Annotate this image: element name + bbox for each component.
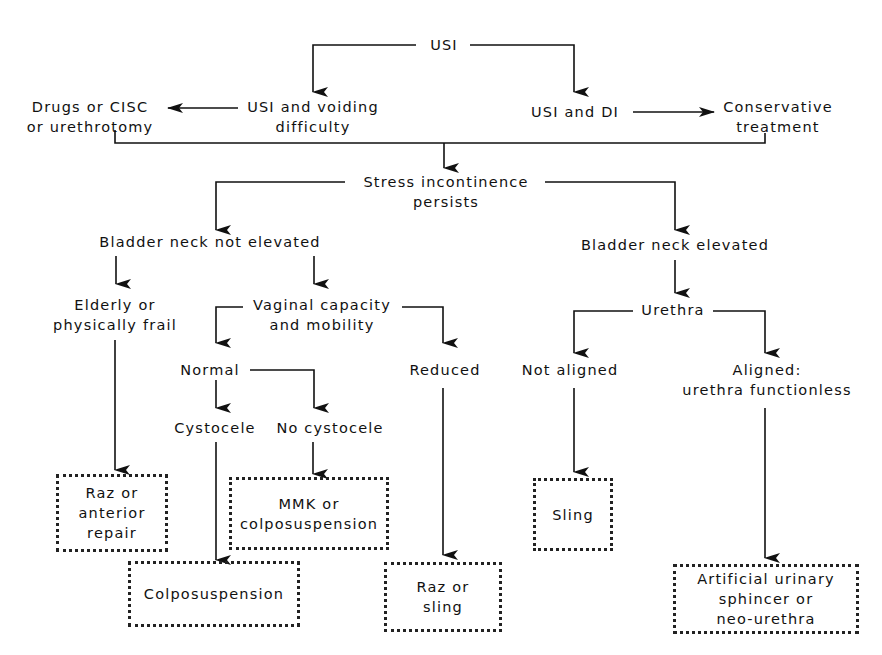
- node-urethra: Urethra: [641, 300, 704, 320]
- node-no-cystocele: No cystocele: [276, 418, 383, 438]
- outcome-sling: Sling: [533, 478, 613, 551]
- node-elderly-or-frail: Elderly or physically frail: [53, 295, 177, 335]
- node-not-aligned: Not aligned: [522, 360, 619, 380]
- node-vaginal-capacity-mobility: Vaginal capacity and mobility: [253, 295, 391, 335]
- node-usi: USI: [430, 35, 458, 55]
- outcome-mmk-or-colposuspension: MMK or colposuspension: [229, 477, 389, 550]
- node-aligned-urethra-functionless: Aligned: urethra functionless: [682, 360, 851, 400]
- outcome-colposuspension: Colposuspension: [128, 561, 300, 627]
- node-conservative-treatment: Conservative treatment: [723, 97, 833, 137]
- node-reduced: Reduced: [409, 360, 480, 380]
- node-usi-voiding-difficulty: USI and voiding difficulty: [247, 97, 379, 137]
- node-bladder-neck-elevated: Bladder neck elevated: [581, 235, 769, 255]
- node-usi-and-di: USI and DI: [531, 102, 619, 122]
- outcome-raz-or-anterior-repair: Raz or anterior repair: [56, 474, 168, 552]
- node-cystocele: Cystocele: [174, 418, 255, 438]
- node-bladder-neck-not-elevated: Bladder neck not elevated: [99, 232, 320, 252]
- node-drugs-cisc-urethrotomy: Drugs or CISC or urethrotomy: [27, 97, 154, 137]
- node-stress-incontinence-persists: Stress incontinence persists: [363, 172, 528, 212]
- outcome-artificial-urinary-sphincter: Artificial urinary sphincer or neo-ureth…: [673, 564, 859, 634]
- outcome-raz-or-sling: Raz or sling: [384, 562, 502, 632]
- node-normal: Normal: [180, 360, 240, 380]
